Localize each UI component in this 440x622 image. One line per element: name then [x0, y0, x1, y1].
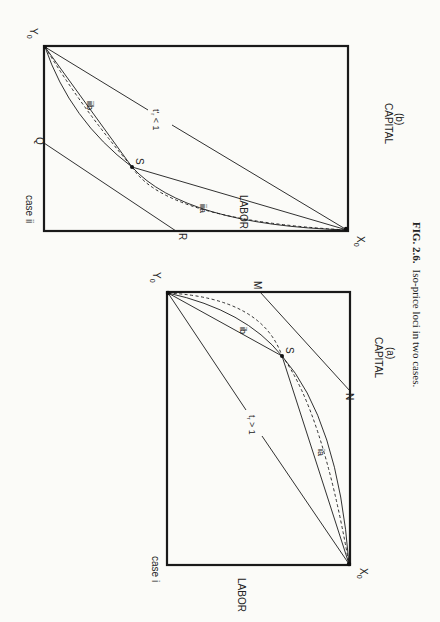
panel-a-point-m: M [252, 281, 263, 289]
panel-b-origin-x: X0 [353, 236, 366, 247]
panel-b-x0-marker [344, 227, 348, 231]
panel-b-y0-marker [43, 45, 47, 49]
panel-b-sub-label: (b) [394, 113, 405, 125]
panel-a-origin-y: Y0 [149, 272, 162, 283]
panel-b-curve-iib-label: iib [85, 101, 95, 110]
panel-a-chord-upper [168, 293, 282, 356]
panel-a-diagonal-1 [168, 293, 246, 410]
panel-b-point-s-marker [130, 165, 134, 169]
panel-b-ratio-label: t'r < 1 [150, 109, 161, 131]
panel-b-point-s: S [134, 158, 145, 165]
panel-a-point-s: S [284, 347, 295, 354]
panel-a-chord-lower [282, 356, 349, 564]
panel-a-ratio-label: tr > 1 [246, 415, 257, 435]
panel-b-x-axis-label: CAPITAL [383, 103, 394, 144]
panel-b-curve-iia-label: iia [198, 204, 208, 213]
panel-b-point-r: R [177, 233, 188, 240]
panel-a-case-label: case i [150, 556, 161, 582]
panel-a-sub-label: (a) [385, 347, 396, 359]
panel-a-curve-ib-label: ib [238, 327, 248, 334]
panel-b-origin-y: Y0 [26, 28, 39, 39]
panel-a-origin-x: X0 [356, 568, 369, 579]
panel-a-curve-ia-label: ia [316, 449, 326, 456]
panel-b [43, 45, 348, 231]
panel-a-mn-line [260, 292, 350, 391]
figure-caption: FIG. 2.6.Iso-price loci in two cases. [411, 222, 423, 387]
panel-a-x-axis-label: CAPITAL [373, 337, 384, 378]
panel-b-case-label: case ii [24, 195, 35, 223]
panel-a-point-s-marker [280, 354, 284, 358]
panel-b-diagonal-1 [45, 47, 148, 110]
panel-b-point-q: Q [34, 137, 45, 145]
panel-a-y-axis-label: LABOR [236, 578, 247, 612]
panel-a-y0-marker [166, 291, 170, 295]
panel-b-diagonal-2 [172, 125, 347, 230]
figure-canvas: case ii Y0 X0 Q R S iib iia t'r < 1 LABO… [0, 0, 440, 622]
panel-b-y-axis-label: LABOR [238, 195, 249, 229]
panel-a [166, 291, 351, 566]
panel-a-point-n: N [344, 393, 355, 400]
panel-a-x0-marker [347, 562, 351, 566]
